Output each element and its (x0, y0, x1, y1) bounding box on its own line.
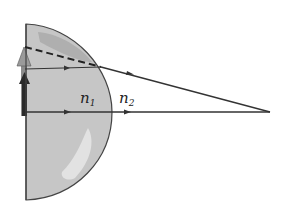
arrowhead-icon (124, 110, 131, 115)
arrowhead-icon (126, 71, 134, 75)
n2-label: n2 (119, 89, 135, 108)
lens-diagram: n1 n2 (0, 0, 282, 215)
